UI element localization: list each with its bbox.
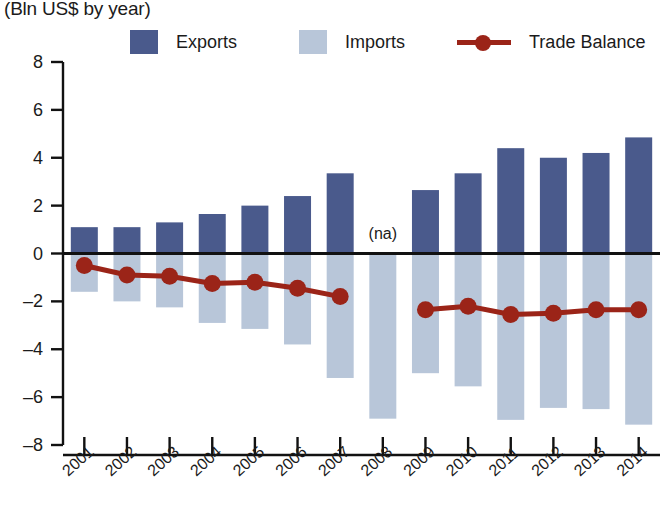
export-bar xyxy=(241,206,268,254)
x-tick-label: 2010 xyxy=(443,443,481,480)
svg-text:4: 4 xyxy=(33,148,43,168)
svg-text:–4: –4 xyxy=(23,339,43,359)
x-tick-label: 2007 xyxy=(315,443,353,480)
export-bar xyxy=(71,227,98,253)
x-tick-label: 2009 xyxy=(400,443,438,480)
x-axis: 2001200220032004200520062007200820092010… xyxy=(59,437,660,479)
chart-plot-area: 86420–2–4–6–8 (na) 200120022003200420052… xyxy=(0,0,667,514)
export-bar xyxy=(412,190,439,253)
svg-text:–2: –2 xyxy=(23,291,43,311)
trade-balance-point xyxy=(204,275,221,292)
trade-balance-point xyxy=(76,257,93,274)
export-bar xyxy=(113,227,140,253)
export-bar xyxy=(199,214,226,253)
svg-text:–6: –6 xyxy=(23,387,43,407)
x-tick-label: 2004 xyxy=(187,443,225,480)
svg-text:0: 0 xyxy=(33,244,43,264)
import-bar xyxy=(284,254,311,345)
import-bar xyxy=(455,254,482,387)
x-tick-label: 2014 xyxy=(613,443,651,480)
x-tick-label: 2012 xyxy=(528,443,566,480)
trade-balance-point xyxy=(161,268,178,285)
export-bar xyxy=(497,148,524,253)
export-bar xyxy=(625,137,652,253)
chart-annotations: (na) xyxy=(369,225,397,242)
x-tick-label: 2003 xyxy=(144,443,182,480)
import-bar xyxy=(241,254,268,329)
trade-balance-point xyxy=(417,301,434,318)
na-annotation: (na) xyxy=(369,225,397,242)
import-bar xyxy=(540,254,567,408)
trade-balance-point xyxy=(588,301,605,318)
export-bar xyxy=(327,173,354,253)
trade-balance-point xyxy=(332,288,349,305)
export-bar xyxy=(583,153,610,254)
export-bar xyxy=(455,173,482,253)
export-bar xyxy=(540,158,567,254)
import-bar xyxy=(369,254,396,419)
import-bar xyxy=(583,254,610,410)
imports-bars xyxy=(71,254,652,425)
export-bar xyxy=(156,222,183,253)
trade-balance-point xyxy=(289,280,306,297)
trade-balance-point xyxy=(460,298,477,315)
x-tick-label: 2001 xyxy=(59,443,97,480)
x-tick-label: 2008 xyxy=(357,443,395,480)
export-bar xyxy=(284,196,311,253)
trade-balance-point xyxy=(502,306,519,323)
exports-bars xyxy=(71,137,652,253)
import-bar xyxy=(625,254,652,425)
svg-text:8: 8 xyxy=(33,52,43,72)
svg-text:2: 2 xyxy=(33,196,43,216)
trade-balance-point xyxy=(118,267,135,284)
x-tick-label: 2006 xyxy=(272,443,310,480)
trade-balance-point xyxy=(630,301,647,318)
import-bar xyxy=(327,254,354,378)
chart-container: Exports and Imports, by year (Bln US$ by… xyxy=(0,0,667,514)
x-tick-label: 2005 xyxy=(230,443,268,480)
x-tick-label: 2011 xyxy=(485,444,522,480)
x-tick-label: 2013 xyxy=(571,443,609,480)
trade-balance-point xyxy=(246,274,263,291)
import-bar xyxy=(497,254,524,420)
svg-text:6: 6 xyxy=(33,100,43,120)
trade-balance-point xyxy=(545,305,562,322)
y-axis-ticks: 86420–2–4–6–8 xyxy=(23,52,63,455)
svg-text:–8: –8 xyxy=(23,435,43,455)
x-tick-label: 2002 xyxy=(102,443,140,480)
